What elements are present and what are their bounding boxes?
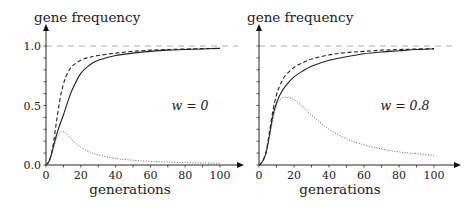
chart-panel-2: 020406080100generationsgene frequencyw =… [247, 9, 461, 197]
y-axis-arrow-icon [43, 24, 49, 31]
annotation-w: w = 0 [171, 98, 208, 113]
figure: 0204060801000.00.51.0generationsgene fre… [0, 0, 473, 207]
x-tick-label: 100 [424, 169, 445, 182]
x-tick-label: 0 [256, 169, 263, 182]
x-tick-label: 80 [392, 169, 406, 182]
y-axis-label: gene frequency [247, 9, 354, 25]
y-tick-label: 0.5 [24, 100, 42, 113]
y-tick-label: 0.0 [24, 159, 42, 172]
chart-panel-1: 0204060801000.00.51.0generationsgene fre… [24, 9, 245, 197]
y-axis-label: gene frequency [34, 9, 141, 25]
x-axis-arrow-icon [237, 162, 244, 168]
y-tick-label: 1.0 [24, 40, 42, 53]
x-tick-label: 100 [210, 169, 231, 182]
x-axis-arrow-icon [454, 162, 461, 168]
series-dotted-line [46, 132, 220, 165]
x-tick-label: 0 [43, 169, 50, 182]
x-axis-label: generations [89, 181, 170, 197]
x-axis-label: generations [299, 181, 380, 197]
x-tick-label: 80 [178, 169, 192, 182]
y-axis-arrow-icon [256, 24, 262, 31]
x-tick-label: 20 [74, 169, 88, 182]
annotation-w: w = 0.8 [381, 98, 430, 113]
